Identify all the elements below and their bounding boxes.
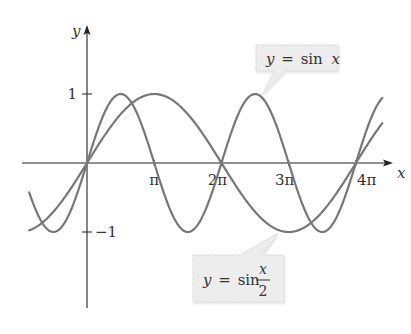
callout-sin-half-x-lhs: y	[202, 271, 212, 289]
y-tick-label: −1	[95, 223, 117, 241]
callout-sin-half-x-box	[193, 233, 284, 302]
x-axis-label: x	[397, 164, 406, 182]
callout-sin-half-x	[193, 233, 284, 302]
y-axis-label: y	[71, 22, 81, 40]
callout-sin-half-x-denominator: 2	[259, 283, 268, 299]
callout-sin-x-eq: =	[281, 50, 294, 68]
x-tick-label: 4π	[357, 171, 377, 189]
callout-sin-x-fn: sin	[301, 50, 323, 68]
callout-sin-half-x-eq: =	[218, 271, 231, 289]
callout-sin-x-lhs: y	[265, 50, 275, 68]
callout-sin-half-x-numerator: x	[259, 261, 267, 277]
callout-sin-x-arg: x	[332, 50, 341, 68]
y-tick-label: 1	[67, 85, 77, 103]
chart: x y π2π3π4π1−1 y = sin x y = sin x 2	[0, 0, 411, 334]
callout-sin-half-x-text: y = sin	[202, 271, 260, 289]
